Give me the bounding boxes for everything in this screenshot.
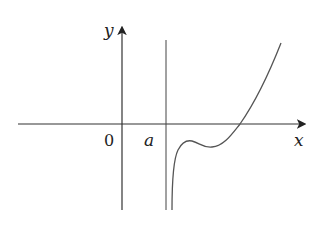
asymptote-label: a <box>144 130 154 150</box>
function-curve <box>172 43 281 210</box>
function-graph: y x 0 a <box>0 0 321 227</box>
origin-label: 0 <box>104 131 114 150</box>
y-axis-label: y <box>103 20 114 40</box>
x-axis-label: x <box>294 130 304 150</box>
